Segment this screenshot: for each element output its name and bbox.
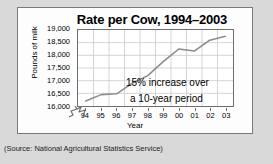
x-tick-mark	[163, 108, 164, 111]
axis-break-icon	[68, 105, 90, 119]
source-note: (Source: National Agricultural Statistic…	[4, 144, 163, 153]
x-tick-mark	[226, 108, 227, 111]
x-tick-mark	[101, 108, 102, 111]
x-tick-mark	[210, 108, 211, 111]
x-tick-mark	[132, 108, 133, 111]
x-axis-label: Year	[18, 121, 252, 130]
y-tick-label: 18,500	[18, 37, 70, 46]
y-tick-label: 17,000	[18, 76, 70, 85]
y-tick-label: 19,000	[18, 24, 70, 33]
y-tick-label: 16,500	[18, 89, 70, 98]
y-tick-label: 17,500	[18, 63, 70, 72]
annotation-line-1: 15% increase over	[126, 77, 209, 88]
y-tick-label: 16,000	[18, 102, 70, 111]
chart-panel: Rate per Cow, 1994–2003 Pounds of milk 1…	[17, 7, 253, 134]
chart-screenshot: Rate per Cow, 1994–2003 Pounds of milk 1…	[0, 0, 273, 164]
y-tick-label: 18,000	[18, 50, 70, 59]
x-tick-mark	[116, 108, 117, 111]
x-tick-label: 03	[217, 111, 235, 120]
annotation-line-2: a 10-year period	[130, 93, 203, 104]
chart-title: Rate per Cow, 1994–2003	[54, 12, 250, 27]
x-tick-mark	[195, 108, 196, 111]
x-tick-mark	[148, 108, 149, 111]
x-tick-mark	[179, 108, 180, 111]
